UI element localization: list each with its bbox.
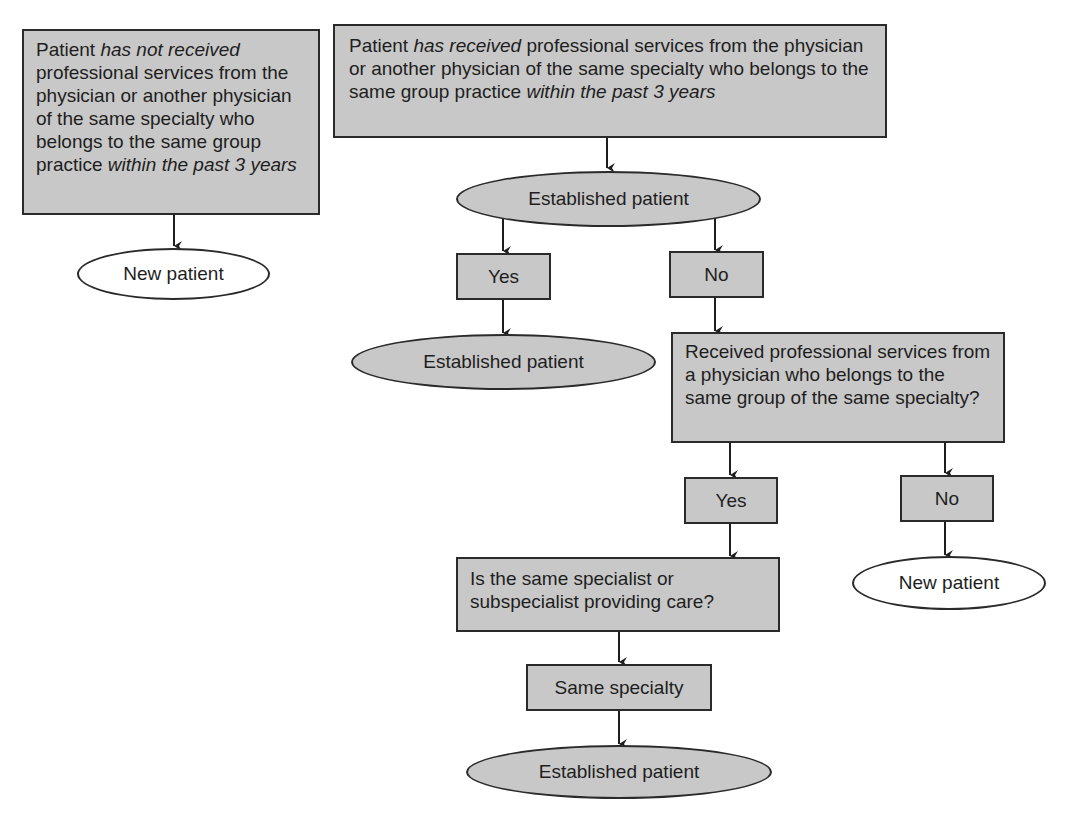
question-text: Received professional services from a ph…	[685, 341, 990, 408]
question-text: Is the same specialist or subspecialist …	[470, 568, 714, 612]
established-patient-oval: Established patient	[456, 171, 761, 227]
established-patient-yes-oval: Established patient	[351, 334, 656, 390]
new-patient-q2-oval: New patient	[852, 556, 1046, 610]
not-received-condition-box: Patient has not received professional se…	[22, 29, 320, 215]
yes-label: Yes	[488, 265, 519, 288]
established-patient-final-oval: Established patient	[466, 745, 772, 799]
same-group-question-box: Received professional services from a ph…	[671, 332, 1005, 443]
answer-label: Same specialty	[555, 676, 684, 699]
result-label: New patient	[899, 572, 999, 594]
no-box: No	[669, 251, 764, 298]
result-label: Established patient	[539, 761, 700, 783]
received-condition-box: Patient has received professional servic…	[333, 24, 887, 138]
condition-time-emphasis: within the past 3 years	[526, 81, 715, 102]
condition-emphasis: has not received	[100, 39, 239, 60]
q2-yes-box: Yes	[684, 477, 778, 524]
q2-no-box: No	[900, 475, 994, 522]
result-label: Established patient	[423, 351, 584, 373]
no-label: No	[704, 263, 728, 286]
condition-text: Patient	[349, 35, 413, 56]
yes-box: Yes	[456, 253, 551, 300]
same-specialist-question-box: Is the same specialist or subspecialist …	[456, 557, 780, 632]
result-label: New patient	[123, 263, 223, 285]
condition-emphasis: has received	[413, 35, 521, 56]
condition-text: Patient	[36, 39, 100, 60]
yes-label: Yes	[716, 489, 747, 512]
condition-time-emphasis: within the past 3 years	[108, 154, 297, 175]
same-specialty-box: Same specialty	[526, 664, 712, 711]
no-label: No	[935, 487, 959, 510]
new-patient-oval: New patient	[77, 248, 270, 300]
result-label: Established patient	[528, 188, 689, 210]
